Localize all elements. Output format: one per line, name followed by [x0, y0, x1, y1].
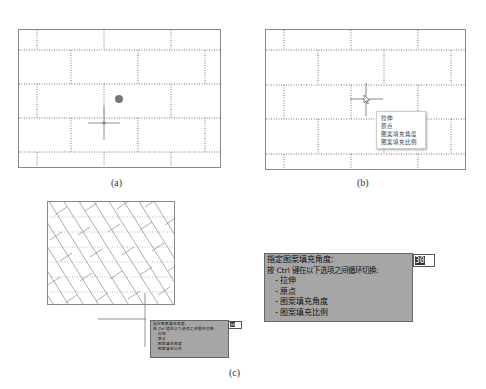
- pointer-cursor-icon: [364, 95, 370, 104]
- panel-a: (a): [0, 0, 243, 195]
- panel-c: 指定图案填充角度: 按 Ctrl 键在以下选项之间循环切换: - 拉伸 - 原点…: [0, 195, 250, 389]
- brick-hatch-drawing: [243, 0, 486, 195]
- menu-item-hatch-angle[interactable]: 图案填充角度: [381, 130, 421, 138]
- tooltip-option: - 图案填充比例: [153, 347, 226, 352]
- tooltip-option-stretch: - 拉伸: [267, 276, 410, 287]
- panel-b: 拉伸 原点 图案填充角度 图案填充比例 (b): [243, 0, 486, 195]
- rotated-brick-hatch-drawing: [0, 195, 250, 389]
- angle-input-enlarged[interactable]: 30: [413, 254, 435, 267]
- tooltip-hint: 按 Ctrl 键在以下选项之间循环切换:: [267, 266, 410, 277]
- angle-input-small[interactable]: 30: [228, 321, 242, 329]
- caption-c: (c): [229, 367, 240, 378]
- brick-hatch-drawing: [0, 0, 243, 195]
- crosshair-cursor-icon: [98, 293, 146, 347]
- angle-input-value: 30: [230, 322, 235, 327]
- dynamic-input-tooltip-enlarged: 指定图案填充角度: 按 Ctrl 键在以下选项之间循环切换: - 拉伸 - 原点…: [264, 253, 413, 322]
- menu-item-origin[interactable]: 原点: [381, 122, 421, 130]
- context-menu: 拉伸 原点 图案填充角度 图案填充比例: [376, 111, 426, 149]
- tooltip-title: 指定图案填充角度:: [267, 255, 410, 266]
- tooltip-option-origin: - 原点: [267, 287, 410, 298]
- grip-icon: [115, 95, 123, 103]
- menu-item-stretch[interactable]: 拉伸: [381, 114, 421, 122]
- dynamic-input-tooltip-small: 指定图案填充角度: 按 Ctrl 键在以下选项之间循环切换: - 拉伸 - 原点…: [150, 320, 229, 358]
- tooltip-option-hatch-scale: - 图案填充比例: [267, 308, 410, 319]
- menu-item-hatch-scale[interactable]: 图案填充比例: [381, 138, 421, 146]
- tooltip-option-hatch-angle: - 图案填充角度: [267, 297, 410, 308]
- caption-a: (a): [111, 177, 122, 188]
- angle-input-value: 30: [415, 256, 425, 265]
- caption-b: (b): [357, 177, 369, 188]
